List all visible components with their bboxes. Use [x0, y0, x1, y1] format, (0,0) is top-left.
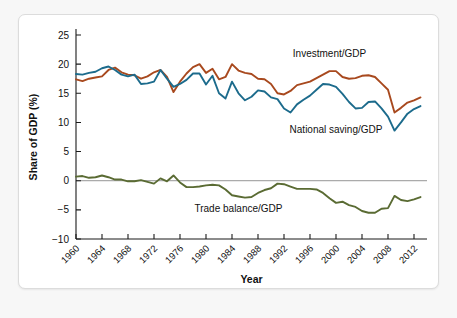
y-tick-label: 20: [58, 59, 70, 70]
series-label-national-saving-gdp: National saving/GDP: [290, 124, 383, 135]
x-tick-label: 1980: [189, 243, 212, 266]
page-background: 2520151050−5−101960196419681972197619801…: [0, 0, 457, 318]
x-tick-label: 1984: [215, 243, 238, 266]
chart-card: 2520151050−5−101960196419681972197619801…: [18, 14, 439, 289]
series-label-investment-gdp: Investment/GDP: [293, 48, 367, 59]
x-tick-label: 1972: [137, 243, 160, 266]
y-axis-title: Share of GDP (%): [27, 94, 39, 181]
x-tick-label: 1964: [85, 243, 108, 266]
series-label-trade-balance-gdp: Trade balance/GDP: [194, 203, 282, 214]
y-tick-label: −5: [58, 204, 70, 215]
x-tick-label: 2004: [345, 243, 368, 266]
x-tick-label: 1996: [293, 243, 316, 266]
y-tick-label: 0: [63, 175, 69, 186]
y-tick-label: −10: [52, 234, 69, 245]
series-line-investment-gdp: [76, 64, 421, 112]
gdp-shares-line-chart: 2520151050−5−101960196419681972197619801…: [19, 15, 438, 288]
x-tick-label: 1976: [163, 243, 186, 266]
chart-container: 2520151050−5−101960196419681972197619801…: [19, 15, 438, 288]
x-axis-title: Year: [240, 273, 262, 285]
y-tick-label: 10: [58, 117, 70, 128]
x-tick-label: 1992: [267, 243, 290, 266]
y-tick-label: 15: [58, 88, 70, 99]
x-tick-label: 2008: [371, 243, 394, 266]
x-tick-label: 1960: [59, 243, 82, 266]
y-tick-label: 25: [58, 30, 70, 41]
x-tick-label: 2012: [397, 243, 420, 266]
x-tick-label: 2000: [319, 243, 342, 266]
y-tick-label: 5: [63, 146, 69, 157]
x-tick-label: 1988: [241, 243, 264, 266]
x-tick-label: 1968: [111, 243, 134, 266]
